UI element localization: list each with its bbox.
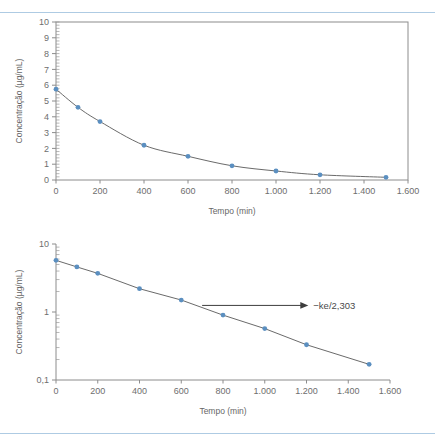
y-axis-tick-label: 1 — [44, 307, 49, 317]
data-point-marker — [98, 119, 103, 124]
data-point-marker — [230, 163, 235, 168]
data-point-marker — [137, 286, 142, 291]
x-axis-tick-label: 1.000 — [253, 386, 276, 396]
x-axis-tick-label: 0 — [53, 386, 58, 396]
x-axis-tick-label: 400 — [132, 386, 147, 396]
data-point-marker — [186, 154, 191, 159]
y-axis-tick-label: 8 — [44, 49, 49, 59]
y-axis-tick-label: 10 — [39, 17, 49, 27]
y-axis-tick-label: 7 — [44, 65, 49, 75]
x-axis-tick-label: 400 — [136, 186, 151, 196]
data-point-marker — [221, 313, 226, 318]
data-point-marker — [179, 298, 184, 303]
y-axis-tick-label: 2 — [44, 144, 49, 154]
y-axis-tick-label: 1 — [44, 159, 49, 169]
plot-frame — [56, 22, 408, 180]
semilog-concentration-chart: 02004006008001.0001.2001.4001.6001010,1T… — [0, 232, 435, 432]
data-point-marker — [274, 169, 279, 174]
data-point-marker — [54, 87, 59, 92]
x-axis-tick-label: 1.600 — [379, 386, 402, 396]
y-axis-title: Concentração (µg/mL) — [14, 269, 24, 354]
x-axis-tick-label: 1.400 — [353, 186, 376, 196]
data-point-marker — [142, 143, 147, 148]
slope-annotation-label: −ke/2,303 — [313, 300, 355, 311]
data-point-marker — [318, 172, 323, 177]
semilog-chart-svg: 02004006008001.0001.2001.4001.6001010,1T… — [0, 232, 435, 432]
slope-annotation-arrow-head — [300, 302, 308, 309]
x-axis-tick-label: 1.400 — [337, 386, 360, 396]
x-axis-tick-label: 1.600 — [397, 186, 420, 196]
y-axis-tick-label: 0 — [44, 175, 49, 185]
x-axis-tick-label: 0 — [53, 186, 58, 196]
data-point-marker — [54, 258, 59, 263]
x-axis-tick-label: 200 — [92, 186, 107, 196]
y-axis-tick-label: 10 — [39, 239, 49, 249]
x-axis-title: Tempo (min) — [199, 406, 246, 416]
x-axis-tick-label: 800 — [224, 186, 239, 196]
x-axis-tick-label: 800 — [215, 386, 230, 396]
linear-concentration-chart: 02004006008001.0001.2001.4001.6000123456… — [0, 16, 435, 206]
linear-chart-svg: 02004006008001.0001.2001.4001.6000123456… — [0, 16, 435, 206]
y-axis-tick-label: 3 — [44, 128, 49, 138]
y-axis-tick-label: 5 — [44, 96, 49, 106]
x-axis-title: Tempo (min) — [208, 206, 255, 216]
data-point-marker — [384, 175, 389, 180]
x-axis-tick-label: 1.000 — [265, 186, 288, 196]
series-trend-line — [56, 260, 369, 364]
series-trend-line — [56, 89, 386, 177]
x-axis-tick-label: 600 — [180, 186, 195, 196]
y-axis-tick-label: 0,1 — [36, 375, 49, 385]
data-point-marker — [95, 271, 100, 276]
y-axis-tick-label: 9 — [44, 33, 49, 43]
y-axis-tick-label: 4 — [44, 112, 49, 122]
data-point-marker — [304, 342, 309, 347]
top-divider-rule — [0, 12, 435, 13]
plot-axes — [56, 244, 390, 380]
x-axis-tick-label: 1.200 — [309, 186, 332, 196]
data-point-marker — [262, 326, 267, 331]
x-axis-tick-label: 600 — [174, 386, 189, 396]
y-axis-title: Concentração (µg/mL) — [14, 58, 24, 143]
data-point-marker — [76, 105, 81, 110]
data-point-marker — [367, 362, 372, 367]
x-axis-tick-label: 1.200 — [295, 386, 318, 396]
x-axis-tick-label: 200 — [90, 386, 105, 396]
bottom-divider-rule — [0, 433, 435, 434]
y-axis-tick-label: 6 — [44, 80, 49, 90]
data-point-marker — [74, 265, 79, 270]
slide-canvas: 02004006008001.0001.2001.4001.6000123456… — [0, 0, 435, 439]
